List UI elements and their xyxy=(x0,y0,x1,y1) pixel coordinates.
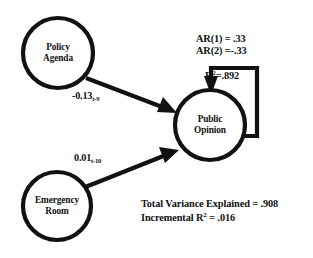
node-label-policy-agenda: Policy Agenda xyxy=(18,42,98,65)
node-label-policy-agenda-line1: Policy xyxy=(18,42,98,53)
annotation-ar1: AR(1) = .33 xyxy=(196,33,246,44)
annotation-incremental-prefix: Incremental R xyxy=(141,212,203,223)
edge-label-policy-coefficient: -0.13 xyxy=(72,90,92,101)
edge-emergency-to-opinion-arrowhead xyxy=(159,147,179,163)
node-label-public-opinion-line2: Opinion xyxy=(170,125,250,136)
annotation-total-variance-explained: Total Variance Explained = .908 xyxy=(141,198,278,209)
edge-label-policy-lag: t-9 xyxy=(92,95,99,102)
annotation-r-squared-exponent: 2 xyxy=(212,69,215,77)
edge-label-emergency-lag: t-10 xyxy=(91,157,101,164)
edge-label-policy-to-opinion: -0.13t-9 xyxy=(72,90,99,101)
annotation-incremental-value: = .016 xyxy=(207,212,235,223)
node-label-emergency-room: Emergency Room xyxy=(7,195,107,218)
annotation-ar2: AR(2) =-.33 xyxy=(196,45,247,56)
annotation-r-squared: R2=.892 xyxy=(205,70,239,81)
node-label-public-opinion: Public Opinion xyxy=(170,114,250,137)
annotation-incremental-r-squared: Incremental R2 = .016 xyxy=(141,212,235,223)
edge-label-emergency-to-opinion: 0.01t-10 xyxy=(74,152,101,163)
annotation-r-squared-value: =.892 xyxy=(216,70,239,81)
node-label-emergency-room-line2: Room xyxy=(7,206,107,217)
node-label-emergency-room-line1: Emergency xyxy=(7,195,107,206)
node-label-public-opinion-line1: Public xyxy=(170,114,250,125)
annotation-incremental-exponent: 2 xyxy=(203,211,206,219)
edge-policy-to-opinion xyxy=(86,78,177,113)
node-label-policy-agenda-line2: Agenda xyxy=(18,53,98,64)
edge-label-emergency-coefficient: 0.01 xyxy=(74,152,91,163)
edge-policy-to-opinion-arrowhead xyxy=(157,97,177,113)
path-diagram: Policy Agenda Public Opinion Emergency R… xyxy=(0,0,313,258)
